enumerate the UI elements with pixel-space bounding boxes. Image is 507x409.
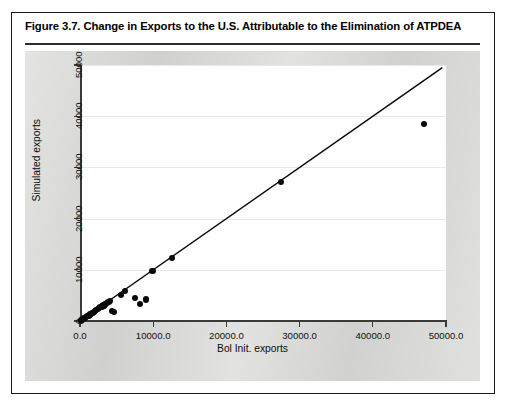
x-axis-tick-label: 50000.0 (429, 330, 464, 341)
x-axis-tick (299, 321, 300, 327)
figure-frame: Figure 3.7. Change in Exports to the U.S… (11, 12, 495, 394)
x-axis-title: Bol Init. exports (25, 343, 480, 354)
x-axis-tick-label: 30000.0 (282, 330, 317, 341)
x-axis-tick-label: 0.0 (73, 330, 86, 341)
x-axis-tick-label: 20000.0 (209, 330, 244, 341)
figure-title: Figure 3.7. Change in Exports to the U.S… (25, 20, 480, 32)
title-divider (25, 43, 480, 45)
x-axis-tick-label: 40000.0 (355, 330, 390, 341)
x-axis-tick-label: 10000.0 (136, 330, 171, 341)
chart-panel: Simulated exports Bol Init. exports Simu… (25, 51, 480, 381)
x-axis-tick (372, 321, 373, 327)
data-point (149, 268, 155, 274)
no-change-reference-line (80, 65, 446, 321)
x-axis-tick (153, 321, 154, 327)
x-axis-tick (226, 321, 227, 327)
x-axis-tick (445, 321, 446, 327)
data-point (421, 121, 427, 127)
data-point (132, 295, 138, 301)
data-point (143, 296, 149, 302)
y-axis-title: Simulated exports (31, 119, 42, 201)
